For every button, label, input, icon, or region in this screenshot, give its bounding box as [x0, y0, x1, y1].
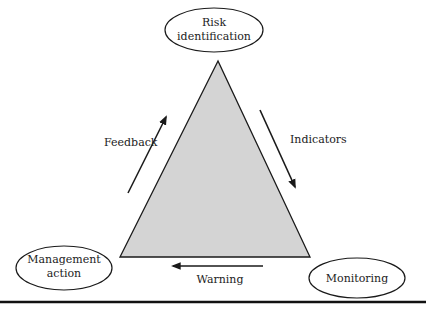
node-management-action-line2: action — [47, 267, 81, 280]
edge-indicators-label: Indicators — [290, 133, 347, 146]
node-risk-identification: Risk identification — [165, 8, 263, 52]
node-management-action-line1: Management — [27, 253, 101, 266]
risk-cycle-diagram: Risk identification Management action Mo… — [0, 0, 426, 311]
node-management-action: Management action — [16, 246, 112, 290]
edge-warning-label: Warning — [197, 273, 244, 286]
edge-feedback-label: Feedback — [104, 136, 158, 149]
node-risk-identification-line1: Risk — [202, 16, 226, 29]
node-monitoring-label: Monitoring — [326, 272, 388, 285]
node-risk-identification-line2: identification — [177, 30, 251, 43]
node-monitoring: Monitoring — [309, 258, 405, 298]
